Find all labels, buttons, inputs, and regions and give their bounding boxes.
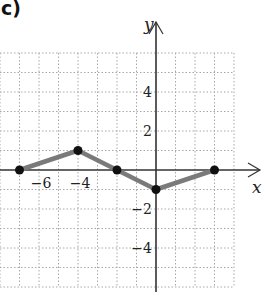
axis-labels: yx−6−442−2−4 <box>31 14 262 256</box>
graph-figure: c) yx−6−442−2−4 <box>0 0 265 296</box>
axes <box>0 22 260 292</box>
y-axis-label: y <box>143 14 154 34</box>
data-point <box>113 166 122 175</box>
data-point <box>152 185 161 194</box>
x-tick-label: −4 <box>70 175 91 191</box>
data-point <box>15 166 24 175</box>
data-point <box>210 166 219 175</box>
y-tick-label: −4 <box>131 240 152 256</box>
y-tick-label: 2 <box>143 123 152 139</box>
y-tick-label: −2 <box>131 201 152 217</box>
y-tick-label: 4 <box>143 84 152 100</box>
panel-label: c) <box>1 0 21 19</box>
data-point <box>74 146 83 155</box>
x-tick-label: −6 <box>31 175 52 191</box>
coordinate-plane: yx−6−442−2−4 <box>0 0 265 296</box>
x-axis-label: x <box>252 177 262 197</box>
